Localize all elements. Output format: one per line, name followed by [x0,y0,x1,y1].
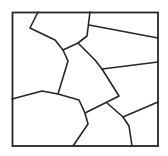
diagram-frame [13,13,159,147]
voronoi-diagram [0,0,168,156]
